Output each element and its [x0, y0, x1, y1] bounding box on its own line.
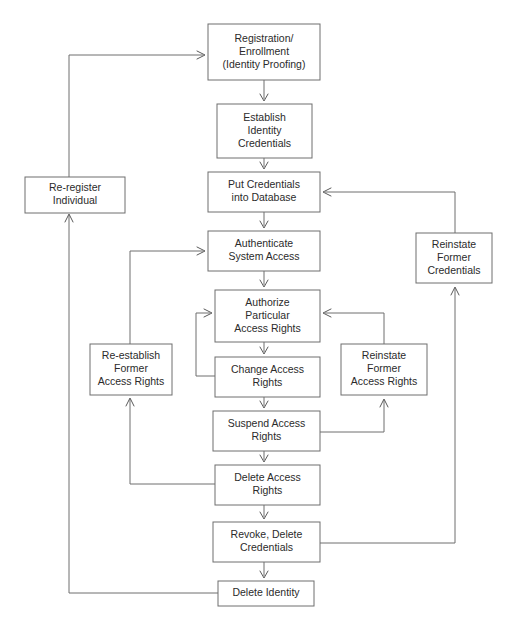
connector-line: [325, 313, 384, 344]
node-label-line: Former: [437, 251, 471, 263]
node-label-line: Identity: [248, 124, 283, 136]
connector-delete-identity-to-re-register: [65, 214, 218, 593]
node-label-line: Delete Access: [234, 471, 301, 483]
connector-change-to-authorize-loop: [196, 309, 215, 376]
nodes-layer: Registration/Enrollment(Identity Proofin…: [25, 24, 492, 606]
node-delete-access-rights[interactable]: Delete AccessRights: [215, 465, 320, 505]
identity-lifecycle-flowchart: Registration/Enrollment(Identity Proofin…: [0, 0, 516, 634]
connector-reinstate-access-rights-to-authorize: [323, 309, 384, 344]
connector-line: [320, 400, 384, 432]
connector-suspend-to-reinstate-access-rights: [320, 399, 388, 432]
node-re-register-individual[interactable]: Re-registerIndividual: [25, 177, 125, 213]
node-label-line: Particular: [245, 309, 290, 321]
connector-line: [130, 399, 215, 484]
node-label-line: into Database: [232, 191, 297, 203]
node-label-line: Registration/: [235, 32, 294, 44]
connector-delete-access-to-revoke: [260, 505, 268, 519]
node-authorize-particular-access-rights[interactable]: AuthorizeParticularAccess Rights: [215, 290, 320, 342]
node-registration[interactable]: Registration/Enrollment(Identity Proofin…: [208, 24, 320, 80]
connector-authorize-to-change: [260, 342, 268, 354]
flowchart-canvas: Registration/Enrollment(Identity Proofin…: [0, 0, 516, 634]
node-label-line: Reinstate: [362, 349, 407, 361]
node-label-line: (Identity Proofing): [223, 58, 306, 70]
connector-line: [69, 55, 203, 177]
node-label-line: Re-establish: [102, 349, 161, 361]
node-label-line: Authenticate: [235, 237, 294, 249]
node-label-line: Authorize: [245, 296, 290, 308]
connector-line: [130, 251, 203, 344]
node-suspend-access-rights[interactable]: Suspend AccessRights: [213, 411, 320, 451]
connector-line: [196, 313, 215, 376]
node-label-line: Individual: [53, 194, 97, 206]
connector-revoke-to-reinstate-credentials: [320, 287, 459, 543]
connector-change-to-suspend: [260, 397, 268, 408]
node-label-line: Delete Identity: [232, 586, 300, 598]
node-revoke-delete-credentials[interactable]: Revoke, DeleteCredentials: [213, 522, 320, 562]
node-label-line: Former: [114, 362, 148, 374]
node-label-line: Access Rights: [351, 375, 418, 387]
connector-re-register-to-registration: [69, 51, 205, 177]
node-label-line: Reinstate: [432, 238, 477, 250]
node-re-establish-former-access-rights[interactable]: Re-establishFormerAccess Rights: [90, 344, 172, 395]
connector-authenticate-to-authorize: [260, 271, 268, 287]
node-reinstate-former-access-rights[interactable]: ReinstateFormerAccess Rights: [341, 344, 427, 395]
node-label-line: Rights: [253, 376, 283, 388]
node-label-line: Enrollment: [239, 45, 289, 57]
connector-line: [320, 288, 455, 543]
connector-re-establish-to-authenticate: [130, 247, 205, 344]
node-label-line: Re-register: [49, 181, 101, 193]
node-label-line: Credentials: [427, 264, 480, 276]
connector-line: [69, 215, 218, 593]
node-reinstate-former-credentials[interactable]: ReinstateFormerCredentials: [416, 233, 492, 283]
connector-revoke-to-delete-identity: [260, 562, 268, 578]
node-label-line: System Access: [228, 250, 299, 262]
connector-establish-to-put-credentials: [260, 158, 268, 169]
connector-line: [325, 192, 455, 233]
node-label-line: Revoke, Delete: [231, 528, 303, 540]
node-establish-identity-credentials[interactable]: EstablishIdentityCredentials: [217, 104, 312, 158]
connector-put-credentials-to-authenticate: [260, 212, 268, 228]
connector-delete-access-to-re-establish: [126, 398, 215, 484]
connector-reinstate-credentials-to-put-credentials: [323, 188, 455, 233]
connector-registration-to-establish: [260, 80, 268, 101]
node-label-line: Rights: [252, 430, 282, 442]
connector-suspend-to-delete-access: [260, 451, 268, 462]
node-label-line: Put Credentials: [228, 178, 300, 190]
node-label-line: Credentials: [238, 137, 291, 149]
node-label-line: Access Rights: [98, 375, 165, 387]
node-put-credentials-into-database[interactable]: Put Credentialsinto Database: [208, 172, 320, 212]
node-authenticate-system-access[interactable]: AuthenticateSystem Access: [208, 231, 320, 271]
node-label-line: Access Rights: [234, 322, 301, 334]
node-label-line: Establish: [243, 111, 286, 123]
node-label-line: Suspend Access: [228, 417, 306, 429]
node-label-line: Change Access: [231, 363, 304, 375]
node-delete-identity[interactable]: Delete Identity: [218, 581, 314, 606]
node-label-line: Rights: [253, 484, 283, 496]
node-label-line: Former: [367, 362, 401, 374]
node-label-line: Credentials: [240, 541, 293, 553]
node-change-access-rights[interactable]: Change AccessRights: [215, 357, 320, 397]
